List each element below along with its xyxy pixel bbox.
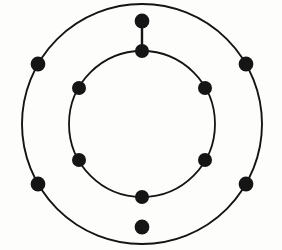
graph-vertex-i2 xyxy=(198,81,212,95)
graph-vertex-i1 xyxy=(135,44,149,58)
graph-vertex-o2 xyxy=(239,57,254,72)
graph-vertex-i4 xyxy=(135,190,149,204)
graph-vertex-i6 xyxy=(72,81,86,95)
figure-root xyxy=(0,0,282,250)
graph-vertex-i5 xyxy=(72,153,86,167)
graph-vertex-i3 xyxy=(198,153,212,167)
graph-diagram-canvas xyxy=(0,0,282,250)
graph-vertex-o5 xyxy=(31,177,46,192)
graph-vertex-o3 xyxy=(239,177,254,192)
graph-vertex-o1 xyxy=(135,14,150,29)
graph-vertex-o6 xyxy=(31,57,46,72)
graph-vertex-o4 xyxy=(135,220,150,235)
